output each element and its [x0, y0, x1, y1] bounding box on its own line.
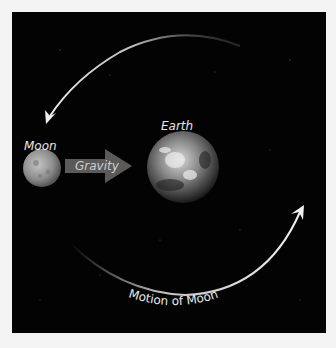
moon-label: Moon	[24, 139, 57, 153]
gravity-label: Gravity	[75, 159, 119, 173]
motion-label: Motion of Moon	[127, 287, 220, 309]
orbit-arrow-bottom	[70, 212, 300, 295]
diagram-panel: Motion of Moon Earth Moon Gravity	[12, 12, 326, 333]
moon-body	[23, 149, 61, 187]
orbit-arrow-top	[50, 35, 240, 116]
arrowhead-top	[45, 110, 56, 124]
earth-label: Earth	[161, 119, 193, 133]
orbit-diagram: Motion of Moon	[12, 12, 326, 333]
